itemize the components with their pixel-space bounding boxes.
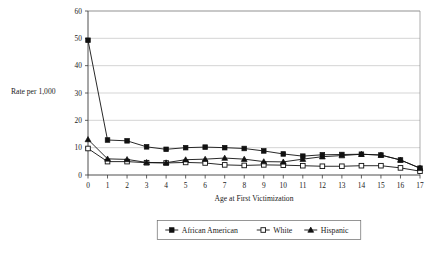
marker-open-square [86, 146, 91, 151]
marker-filled-square [261, 149, 266, 154]
x-tick-label: 0 [86, 181, 90, 190]
x-tick-label: 9 [262, 181, 266, 190]
legend-label: Hispanic [321, 226, 349, 235]
marker-filled-triangle [85, 137, 91, 142]
marker-open-square [301, 163, 306, 168]
y-tick-label: 0 [78, 171, 82, 180]
x-tick-label: 10 [280, 181, 288, 190]
x-tick-label: 5 [184, 181, 188, 190]
y-axis-title: Rate per 1,000 [11, 87, 56, 96]
x-tick-label: 17 [416, 181, 424, 190]
marker-open-square [359, 163, 364, 168]
series-2 [86, 146, 423, 173]
x-tick-label: 16 [397, 181, 405, 190]
x-tick-label: 1 [106, 181, 110, 190]
x-tick-label: 12 [319, 181, 327, 190]
legend-label: African American [182, 226, 238, 235]
series-1 [86, 38, 423, 171]
x-tick-label: 2 [125, 181, 129, 190]
marker-filled-square [86, 38, 91, 43]
marker-open-square [261, 228, 266, 233]
marker-open-square [340, 164, 345, 169]
x-tick-label: 6 [203, 181, 207, 190]
y-tick-label: 30 [75, 89, 83, 98]
line-chart: 010203040506001234567891011121314151617A… [0, 0, 444, 255]
marker-filled-square [242, 146, 247, 151]
series-line [88, 148, 420, 171]
marker-filled-square [281, 152, 286, 157]
x-tick-label: 3 [145, 181, 149, 190]
y-tick-label: 10 [75, 143, 83, 152]
marker-filled-square [105, 138, 110, 143]
x-tick-label: 15 [377, 181, 385, 190]
marker-filled-square [203, 145, 208, 150]
series-line [88, 40, 420, 168]
y-tick-label: 40 [75, 61, 83, 70]
marker-filled-square [144, 145, 149, 150]
chart-canvas: 010203040506001234567891011121314151617A… [0, 0, 444, 255]
x-tick-label: 8 [242, 181, 246, 190]
marker-open-square [320, 164, 325, 169]
x-tick-label: 14 [358, 181, 366, 190]
x-tick-label: 13 [338, 181, 346, 190]
marker-filled-square [125, 139, 130, 144]
marker-filled-square [183, 145, 188, 150]
marker-filled-square [169, 228, 174, 233]
marker-open-square [379, 163, 384, 168]
marker-filled-square [164, 147, 169, 152]
x-tick-label: 11 [299, 181, 306, 190]
marker-filled-square [222, 145, 227, 150]
marker-open-square [222, 163, 227, 168]
y-tick-label: 20 [75, 116, 83, 125]
y-tick-label: 50 [75, 34, 83, 43]
legend-label: White [273, 226, 293, 235]
x-axis-title: Age at First Victimization [215, 194, 294, 203]
x-tick-label: 4 [164, 181, 168, 190]
y-tick-label: 60 [75, 7, 83, 16]
x-tick-label: 7 [223, 181, 227, 190]
marker-open-square [242, 163, 247, 168]
marker-open-square [398, 166, 403, 171]
